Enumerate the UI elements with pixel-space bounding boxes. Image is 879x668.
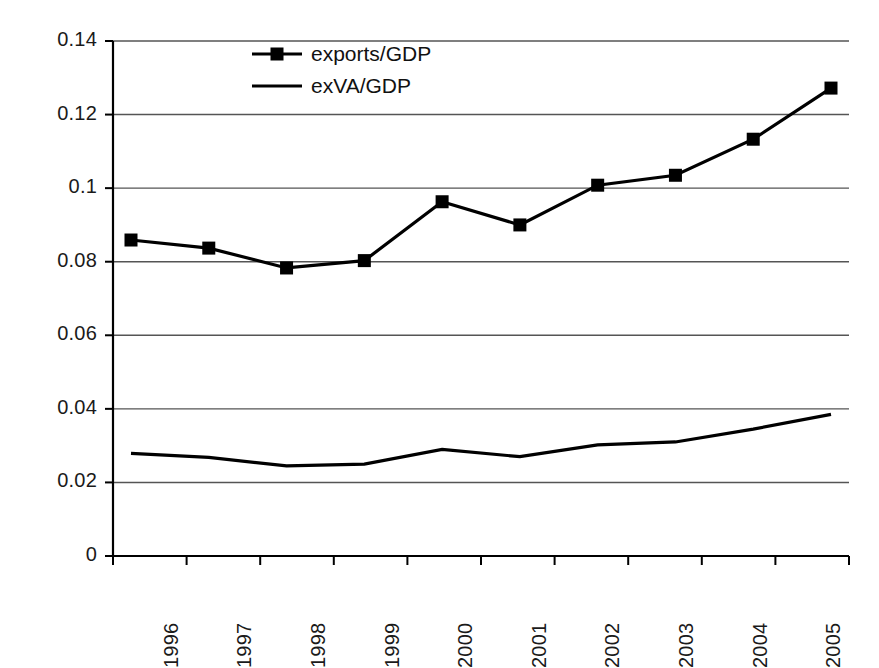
y-axis-tick-label: 0 [17, 543, 97, 566]
legend-label-exports-gdp: exports/GDP [311, 42, 431, 66]
x-axis-tick-label: 1998 [307, 623, 330, 668]
data-point-marker [125, 234, 138, 247]
legend-marks [252, 48, 302, 87]
axes [113, 41, 849, 556]
legend-marker-square-icon [271, 48, 284, 61]
y-axis-ticks [105, 41, 113, 556]
x-axis-tick-label: 2003 [675, 623, 698, 668]
y-axis-tick-label: 0.1 [17, 175, 97, 198]
exva-gdp-line [131, 414, 831, 466]
data-point-marker [591, 179, 604, 192]
x-axis-tick-label: 1997 [233, 623, 256, 668]
gridlines [113, 41, 849, 482]
y-axis-tick-label: 0.06 [17, 322, 97, 345]
x-axis-tick-label: 2005 [822, 623, 845, 668]
series-line-exva-gdp [131, 414, 831, 466]
data-point-marker [358, 254, 371, 267]
x-axis-tick-label: 2001 [528, 623, 551, 668]
y-axis-tick-label: 0.14 [17, 28, 97, 51]
data-point-marker [825, 82, 838, 95]
data-point-marker [669, 169, 682, 182]
data-point-marker [436, 195, 449, 208]
data-point-marker [747, 133, 760, 146]
x-axis-ticks [113, 556, 849, 565]
legend-label-exva-gdp: exVA/GDP [311, 74, 411, 98]
y-axis-tick-label: 0.12 [17, 102, 97, 125]
data-point-marker [513, 218, 526, 231]
data-point-marker [280, 261, 293, 274]
x-axis-tick-label: 2004 [749, 623, 772, 668]
x-axis-tick-label: 1999 [381, 623, 404, 668]
x-axis-tick-label: 2002 [601, 623, 624, 668]
x-axis-tick-label: 1996 [160, 623, 183, 668]
y-axis-tick-label: 0.08 [17, 249, 97, 272]
series-line-exports-gdp [125, 82, 838, 275]
y-axis-tick-label: 0.02 [17, 469, 97, 492]
data-point-marker [202, 242, 215, 255]
y-axis-tick-label: 0.04 [17, 396, 97, 419]
x-axis-tick-label: 2000 [454, 623, 477, 668]
